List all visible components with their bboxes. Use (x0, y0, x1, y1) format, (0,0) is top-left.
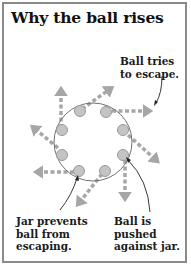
label-jar-prevents-escape: Jar prevents ball from escaping. (16, 215, 88, 253)
label-ball-tries-to-escape: Ball tries to escape. (120, 55, 179, 80)
jar-outline (54, 103, 132, 181)
pointer-escape (156, 76, 162, 103)
pointer-pushed (128, 160, 150, 212)
ball (57, 150, 68, 161)
label-ball-pushed-against-jar: Ball is pushed against jar. (114, 215, 180, 253)
arrow-up-right-icon (82, 89, 110, 109)
ball (74, 166, 85, 177)
escape-arrows (34, 89, 156, 203)
ball (57, 125, 68, 136)
ball (75, 106, 86, 117)
balls (57, 106, 129, 177)
ball (101, 107, 112, 118)
arrow-down-left-icon (79, 174, 102, 203)
ball (100, 166, 111, 177)
pointer-jar (60, 178, 77, 210)
ball (118, 125, 129, 136)
